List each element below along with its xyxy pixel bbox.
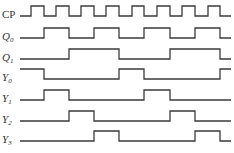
signal-label-q1: Q1 [2,51,13,65]
waveform-q0 [20,28,231,38]
waveform-y2 [20,111,231,121]
signal-label-y0: Y0 [2,71,12,85]
waveform-y3 [20,131,231,141]
signal-labels: CPQ0Q1Y0Y1Y2Y3 [2,8,15,147]
signal-label-cp: CP [2,8,15,20]
signal-waveforms [20,6,231,141]
signal-label-q0: Q0 [2,30,14,44]
signal-label-y3: Y3 [2,133,12,147]
waveform-y1 [20,90,231,100]
signal-label-y1: Y1 [2,92,12,106]
waveform-cp [20,6,231,16]
timing-diagram: CPQ0Q1Y0Y1Y2Y3 [0,0,234,153]
waveform-q1 [20,49,231,59]
signal-label-y2: Y2 [2,113,12,127]
waveform-y0 [20,69,231,79]
